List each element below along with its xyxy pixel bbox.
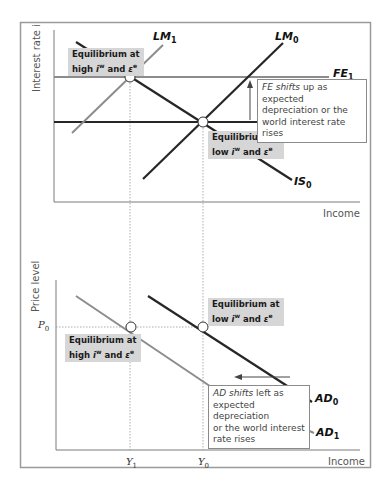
p0-tick-label: P0: [38, 319, 49, 333]
y0-tick-label: Y0: [198, 456, 209, 470]
top-x-axis-label: Income: [323, 208, 360, 219]
bottom-y-axis-label: Price level: [30, 261, 41, 312]
fe-shift-note: FE shifts up as expected depreciation or…: [257, 79, 367, 143]
top-y-axis-label: Interest rate i: [31, 24, 42, 92]
top-low-equilibrium-point: [198, 117, 208, 127]
ad-shift-note: AD shifts left as expected depreciation …: [208, 385, 310, 449]
lm1-label: LM1: [153, 30, 177, 45]
arrow-left-icon: [234, 374, 242, 380]
ad1-label: AD1: [316, 426, 339, 441]
diagram-canvas: [0, 0, 383, 489]
ad0-label: AD0: [315, 392, 338, 407]
arrow-up-icon: [247, 80, 253, 88]
bottom-low-equilibrium-point: [198, 322, 208, 332]
top-high-equilibrium-label: Equilibrium at high iw and εe: [68, 48, 144, 76]
lm0-label: LM0: [275, 30, 299, 45]
bottom-x-axis-label: Income: [328, 456, 365, 467]
y1-tick-label: Y1: [126, 456, 137, 470]
bottom-high-equilibrium-label: Equilibrium at high iw and εe: [65, 334, 141, 362]
is0-label: IS0: [294, 175, 312, 190]
bottom-high-equilibrium-point: [126, 322, 136, 332]
bottom-low-equilibrium-label: Equilibrium at low iw and εe: [208, 298, 284, 326]
